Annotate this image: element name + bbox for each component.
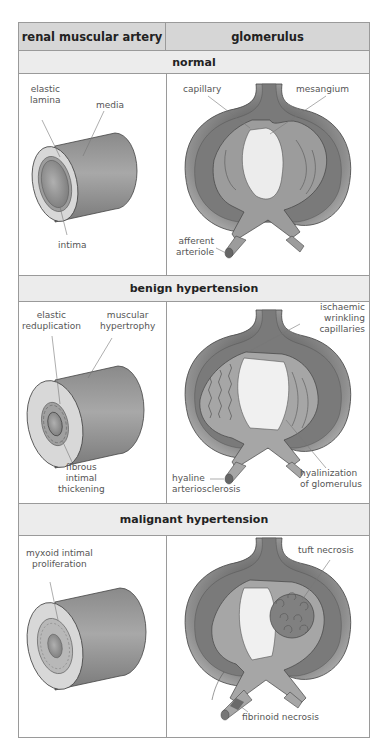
label-tuft-necrosis: tuft necrosis: [298, 545, 354, 556]
label-fibrinoid-necrosis: fibrinoid necrosis: [242, 712, 319, 723]
malignant-glomerulus-illustration: [0, 0, 386, 749]
